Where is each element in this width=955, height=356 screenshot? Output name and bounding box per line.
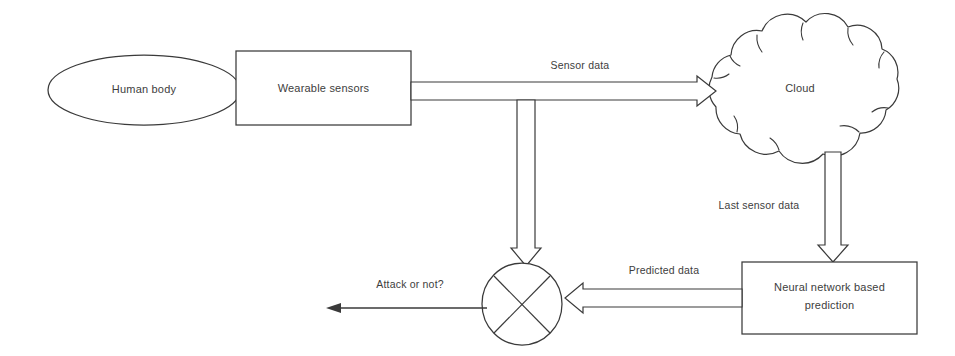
node-cloud[interactable]: Cloud — [709, 14, 899, 164]
diagram-canvas: Human body Wearable sensors Clo — [0, 0, 955, 356]
last-sensor-data-label: Last sensor data — [719, 199, 800, 211]
attack-or-not-label: Attack or not? — [376, 278, 444, 290]
neural-network-label-line1: Neural network based — [774, 281, 885, 293]
edge-sensor-data[interactable]: Sensor data — [411, 59, 716, 106]
predicted-data-arrow — [565, 283, 742, 313]
last-sensor-data-arrow — [818, 152, 848, 262]
human-body-label: Human body — [112, 83, 177, 95]
sensor-data-arrow — [411, 76, 716, 106]
edge-attack-or-not[interactable]: Attack or not? — [326, 278, 487, 313]
diagram-svg: Human body Wearable sensors Clo — [0, 0, 955, 356]
neural-network-label-line2: prediction — [805, 299, 855, 311]
edge-last-sensor-data[interactable]: Last sensor data — [719, 152, 848, 262]
predicted-data-label: Predicted data — [629, 264, 700, 276]
node-comparator[interactable] — [482, 263, 562, 345]
edge-predicted-data[interactable]: Predicted data — [565, 264, 742, 313]
node-human-body[interactable]: Human body — [48, 55, 240, 125]
cloud-label: Cloud — [785, 82, 815, 94]
node-neural-network[interactable]: Neural network based prediction — [742, 262, 917, 334]
wearable-sensors-label: Wearable sensors — [278, 82, 370, 94]
edge-branch-to-comparator[interactable] — [511, 100, 541, 266]
node-wearable-sensors[interactable]: Wearable sensors — [236, 51, 411, 125]
sensor-data-label: Sensor data — [551, 59, 610, 71]
attack-or-not-arrowhead — [326, 303, 341, 313]
branch-down-arrow — [511, 100, 541, 266]
